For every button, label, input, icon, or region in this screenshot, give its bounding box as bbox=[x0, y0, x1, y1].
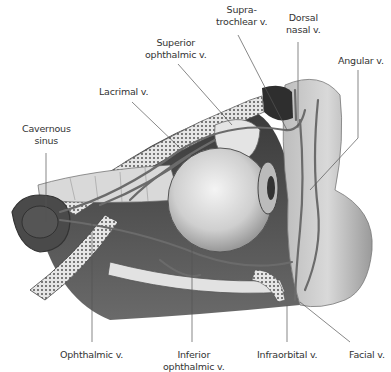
leader-facial bbox=[300, 302, 350, 342]
leader-lacrimal bbox=[132, 102, 180, 148]
label-cavernous-sinus: Cavernous sinus bbox=[22, 123, 71, 147]
label-dorsal-nasal-vein: Dorsal nasal v. bbox=[286, 12, 321, 36]
leader-superior-ophthalmic bbox=[178, 64, 232, 125]
label-superior-ophthalmic-vein: Superior ophthalmic v. bbox=[145, 37, 207, 61]
label-lacrimal-vein: Lacrimal v. bbox=[99, 86, 148, 98]
label-ophthalmic-vein: Ophthalmic v. bbox=[60, 349, 123, 361]
label-supratrochlear-vein: Supra- trochlear v. bbox=[216, 4, 267, 28]
orbit-vein-diagram: Supra- trochlear v. Dorsal nasal v. Supe… bbox=[0, 0, 391, 372]
label-inferior-ophthalmic-vein: Inferior ophthalmic v. bbox=[163, 349, 225, 372]
label-infraorbital-vein: Infraorbital v. bbox=[257, 349, 317, 361]
label-angular-vein: Angular v. bbox=[338, 55, 384, 67]
leader-supratrochlear bbox=[238, 35, 287, 130]
label-facial-vein: Facial v. bbox=[349, 349, 385, 361]
